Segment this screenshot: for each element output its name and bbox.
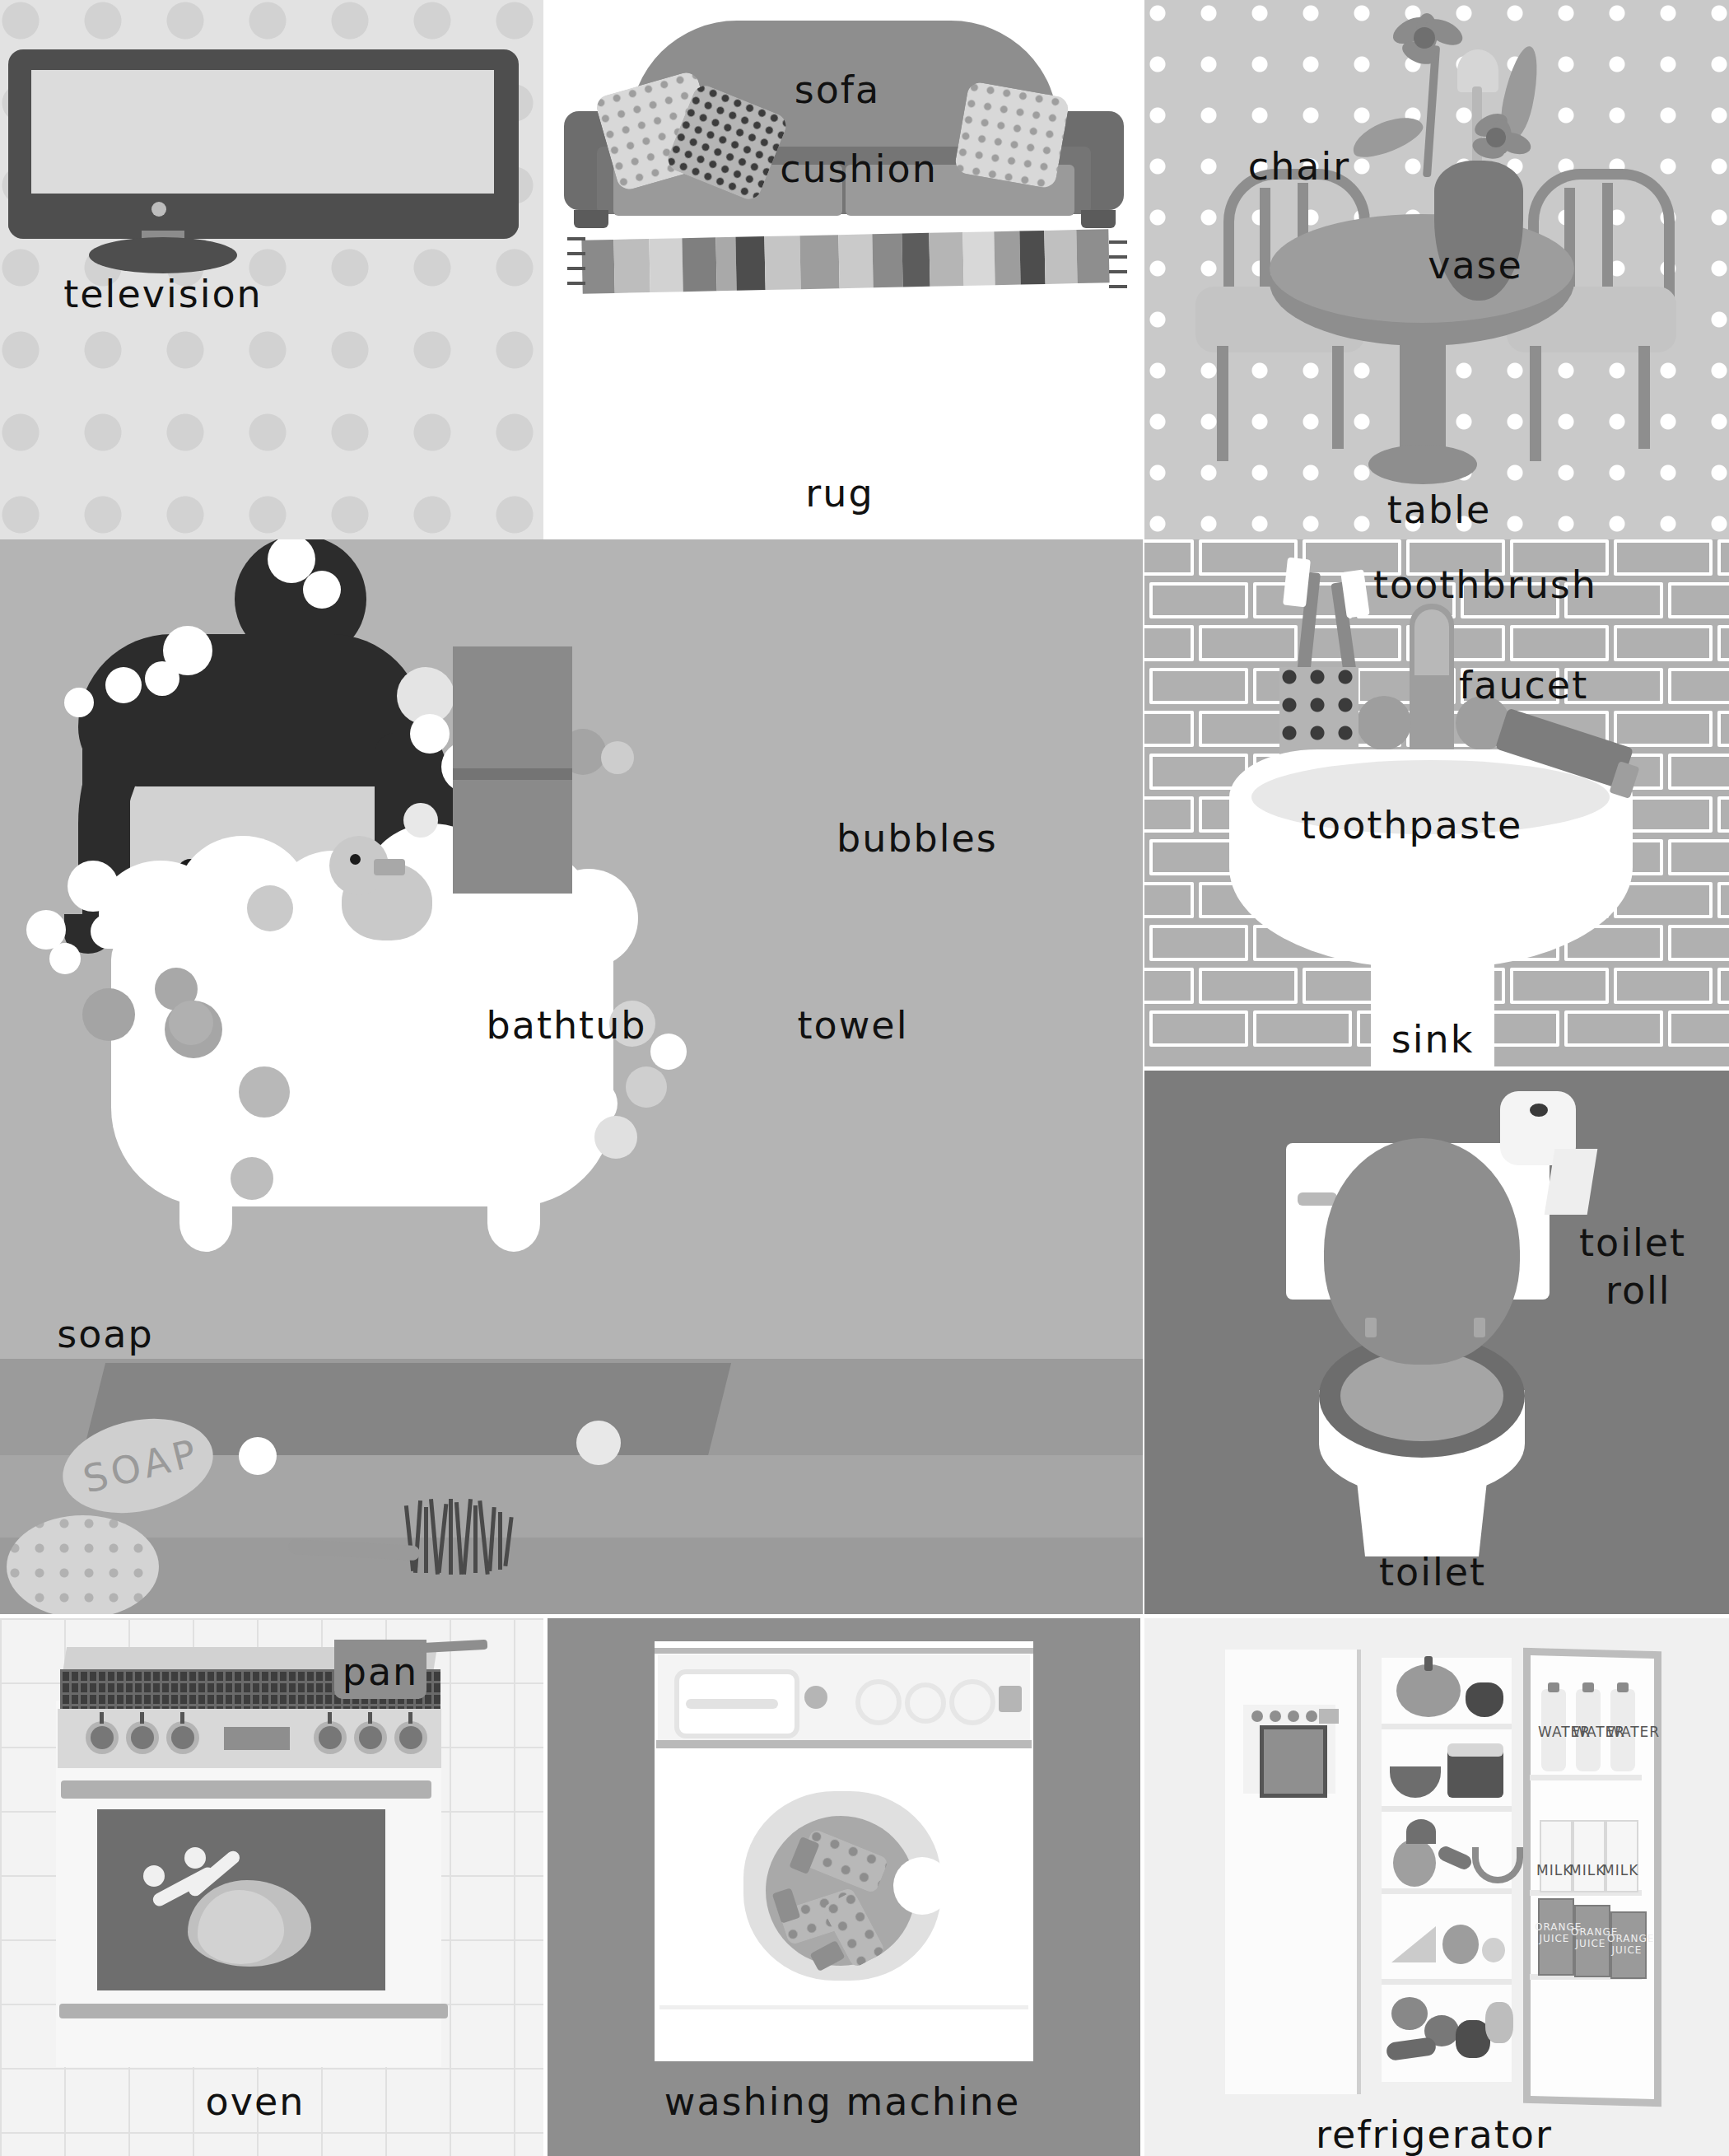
sponge	[7, 1515, 159, 1614]
chair-left-spindle-1	[1260, 188, 1270, 295]
rubber-duck-eye	[350, 854, 361, 865]
washer-dial-2[interactable]	[905, 1682, 946, 1724]
chicken-leg-knob-2	[184, 1847, 206, 1869]
label-toothpaste: toothpaste	[1301, 803, 1522, 847]
ice-display	[1319, 1709, 1339, 1724]
water-bottle-2-cap	[1582, 1682, 1594, 1692]
juice-label-2-line1: ORANGE	[1571, 1926, 1610, 1938]
milk-label-3: MILK	[1602, 1862, 1638, 1878]
water-bottle-3-cap	[1617, 1682, 1629, 1692]
label-refrigerator: refrigerator	[1316, 2112, 1553, 2156]
sofa-leg-right	[1081, 210, 1116, 228]
chair-right-leg-back	[1638, 346, 1650, 449]
panel-bathroom-tub: SOAP bubbles bathtub towel soap sponge h…	[0, 539, 1143, 1614]
garlic	[1482, 1938, 1505, 1962]
chair-right-spindle-2	[1602, 183, 1613, 295]
bubble-10	[68, 861, 119, 912]
towel-stripe	[453, 768, 572, 780]
leaf-left	[1348, 109, 1428, 164]
cake-frosting	[1447, 1743, 1503, 1757]
panel-laundry: washing machine	[548, 1618, 1140, 2156]
ice-button-2[interactable]	[1270, 1710, 1281, 1722]
faucet-handle-left	[1357, 696, 1411, 750]
label-television: television	[63, 272, 262, 316]
rubber-duck-beak	[374, 859, 405, 875]
juice-label-2-line2: JUICE	[1571, 1938, 1610, 1949]
juice-label-1-line2: JUICE	[1535, 1933, 1574, 1944]
label-toothbrush: toothbrush	[1373, 562, 1597, 607]
bubble-28	[105, 667, 142, 703]
chicken-leg-knob-1	[143, 1865, 165, 1887]
label-toilet-roll-line2: roll	[1606, 1268, 1671, 1313]
sofa-leg-left	[574, 210, 608, 228]
table-base	[1368, 445, 1477, 484]
bubble-25	[247, 885, 293, 931]
panel-kitchen-fridge: WATER WATER WATER MILK MILK MILK ORANGE …	[1144, 1618, 1729, 2156]
oven-knob-5[interactable]	[354, 1721, 387, 1754]
grapes	[1466, 1682, 1503, 1717]
bath-foam-7	[144, 885, 243, 976]
oven-handle-top[interactable]	[61, 1780, 431, 1799]
oven-knob-3[interactable]	[166, 1721, 199, 1754]
flower-stem-1	[1423, 45, 1440, 177]
washer-dial-1[interactable]	[855, 1679, 902, 1725]
bubble-15	[601, 741, 634, 774]
fridge-shelf-3	[1382, 1888, 1512, 1894]
toilet-roll-sheet	[1545, 1149, 1598, 1215]
bubble-6	[410, 714, 450, 754]
water-label-1: WATER	[1538, 1724, 1571, 1740]
panel-dining: chair vase table	[1144, 0, 1729, 539]
pumpkin-stem	[1424, 1656, 1433, 1671]
pumpkin	[1396, 1664, 1461, 1717]
oven-knob-2[interactable]	[126, 1721, 159, 1754]
bubble-9	[403, 803, 438, 838]
juice-label-1-line1: ORANGE	[1535, 1921, 1574, 1933]
washer-indicator-light	[804, 1686, 827, 1709]
label-pan: pan	[343, 1650, 419, 1694]
bubble-29	[64, 688, 94, 717]
ice-dispenser-recess[interactable]	[1260, 1725, 1327, 1798]
flower-center-2	[1486, 128, 1506, 147]
label-washing-machine: washing machine	[664, 2079, 1020, 2124]
ice-button-4[interactable]	[1306, 1710, 1317, 1722]
pineapple	[1393, 1839, 1436, 1887]
milk-label-2: MILK	[1569, 1862, 1606, 1878]
bubble-30	[239, 1437, 277, 1475]
water-label-3: WATER	[1607, 1724, 1640, 1740]
faucet-neck	[1414, 609, 1449, 675]
label-oven: oven	[206, 2079, 305, 2124]
bubble-19	[239, 1066, 290, 1118]
milk-carton-3	[1606, 1820, 1638, 1892]
detergent-drawer-ridge	[686, 1699, 778, 1709]
hairbrush	[408, 1499, 515, 1580]
water-bottle-1-cap	[1548, 1682, 1559, 1692]
pepper-light	[1485, 2002, 1513, 2043]
bubble-12	[49, 943, 81, 974]
oven-handle-bottom[interactable]	[59, 2004, 448, 2018]
water-label-2: WATER	[1573, 1724, 1606, 1740]
rug-fringe-left	[567, 237, 585, 288]
door-shelf-1	[1530, 1775, 1642, 1780]
bubble-2	[303, 571, 341, 609]
television-stand-base	[89, 237, 237, 273]
washer-button[interactable]	[999, 1686, 1022, 1712]
washing-machine-lower-edge	[659, 2005, 1028, 2009]
washer-dial-3[interactable]	[949, 1679, 995, 1725]
ice-button-1[interactable]	[1251, 1710, 1263, 1722]
bubble-24	[594, 1116, 637, 1159]
label-rug: rug	[805, 471, 874, 516]
fridge-shelf-1	[1382, 1724, 1512, 1729]
label-vase: vase	[1428, 243, 1523, 287]
label-bathtub: bathtub	[487, 1003, 647, 1048]
oven-knob-4[interactable]	[314, 1721, 347, 1754]
toilet-roll-core-icon	[1530, 1104, 1548, 1117]
ice-button-3[interactable]	[1288, 1710, 1299, 1722]
panel-television: television	[0, 0, 543, 539]
oven-display	[224, 1727, 290, 1750]
label-sofa: sofa	[795, 68, 881, 112]
oven-knob-1[interactable]	[86, 1721, 119, 1754]
oven-knob-6[interactable]	[394, 1721, 427, 1754]
label-soap: soap	[57, 1312, 154, 1356]
label-chair: chair	[1248, 144, 1350, 189]
table-top-surface	[1270, 214, 1574, 323]
